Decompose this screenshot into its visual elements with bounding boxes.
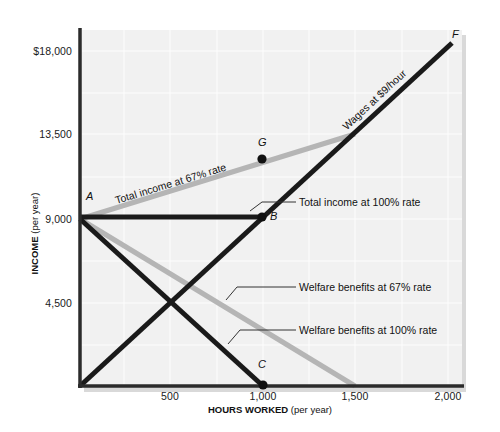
y-axis-title-sub: (per year) [29,193,40,234]
point-label-c: C [258,358,266,370]
x-axis-title: HOURS WORKED (per year) [170,404,370,415]
x-tick-label-2000: 2,000 [418,390,478,402]
series-label-total-income-100: Total income at 100% rate [299,196,420,208]
y-tick-label-4500: 4,500 [10,297,72,309]
series-label-welfare-67: Welfare benefits at 67% rate [299,281,431,293]
series-label-welfare-100: Welfare benefits at 100% rate [299,324,437,336]
y-axis-title: INCOME (per year) [29,169,40,299]
y-tick-label-9000: 9,000 [10,213,72,225]
y-tick-label-13500: 13,500 [10,128,72,140]
point-marker-g [257,154,266,163]
x-axis-title-main: HOURS WORKED [208,404,288,415]
y-axis-title-main: INCOME [29,236,40,274]
point-label-f: F [452,28,459,40]
x-tick-label-1000: 1,000 [233,390,293,402]
chart-plot-area [0,0,500,432]
y-tick-label-18000: $18,000 [10,45,72,57]
x-axis-title-sub: (per year) [291,404,332,415]
point-label-b: B [270,210,277,222]
point-marker-b [257,212,266,221]
chart-figure: $18,000 13,500 9,000 4,500 500 1,000 1,5… [0,0,500,432]
point-marker-c [258,380,267,389]
point-label-a: A [86,190,93,202]
point-label-g: G [258,136,267,148]
x-tick-label-1500: 1,500 [325,390,385,402]
x-tick-label-500: 500 [140,390,200,402]
